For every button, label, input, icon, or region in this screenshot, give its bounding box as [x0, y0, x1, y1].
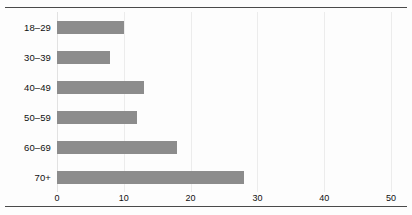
bar-row [57, 42, 391, 72]
x-tick-label-10: 10 [119, 193, 129, 203]
bottom-rule [5, 206, 407, 207]
category-label-70+: 70+ [0, 162, 51, 192]
category-label-60-69: 60–69 [0, 132, 51, 162]
plot-area [57, 12, 391, 192]
top-rule [5, 7, 407, 8]
x-tick-label-20: 20 [186, 193, 196, 203]
category-label-30-39: 30–39 [0, 42, 51, 72]
bar-60-69 [57, 141, 177, 154]
bar-rows [57, 12, 391, 192]
bar-40-49 [57, 81, 144, 94]
bar-row [57, 132, 391, 162]
bar-row [57, 102, 391, 132]
bar-row [57, 12, 391, 42]
gridline-50 [391, 12, 392, 192]
bar-70+ [57, 171, 244, 184]
x-axis-tick-labels: 01020304050 [57, 193, 391, 207]
category-axis-labels: 18–2930–3940–4950–5960–6970+ [0, 12, 51, 192]
category-label-40-49: 40–49 [0, 72, 51, 102]
bar-row [57, 162, 391, 192]
x-tick-label-50: 50 [386, 193, 396, 203]
bar-chart-figure: 18–2930–3940–4950–5960–6970+ 01020304050 [0, 0, 412, 215]
x-tick-label-0: 0 [54, 193, 59, 203]
bar-30-39 [57, 51, 110, 64]
clipped-title-fragment [52, 0, 352, 2]
bar-50-59 [57, 111, 137, 124]
category-label-50-59: 50–59 [0, 102, 51, 132]
category-label-18-29: 18–29 [0, 12, 51, 42]
bar-row [57, 72, 391, 102]
x-tick-label-40: 40 [319, 193, 329, 203]
x-tick-label-30: 30 [252, 193, 262, 203]
bar-18-29 [57, 21, 124, 34]
